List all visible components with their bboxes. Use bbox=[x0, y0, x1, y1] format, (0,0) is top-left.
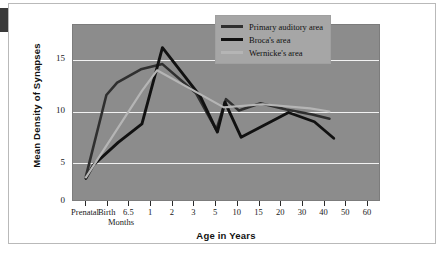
x-tick-label: 5 bbox=[213, 207, 217, 217]
x-tick-label: 60 bbox=[363, 207, 372, 217]
figure-page: Mean Density of Synapses 15 10 5 0 Prena… bbox=[0, 0, 445, 262]
x-tick-label: 6.5 bbox=[123, 207, 134, 217]
x-tick-mark bbox=[85, 201, 86, 206]
x-tick-label: 1 bbox=[148, 207, 152, 217]
x-tick-mark bbox=[172, 201, 173, 206]
series-line bbox=[86, 70, 330, 177]
x-tick-mark bbox=[345, 201, 346, 206]
x-tick-label: 15 bbox=[254, 207, 263, 217]
chart-legend: Primary auditory area Broca's area Werni… bbox=[215, 15, 331, 64]
x-tick-label: 10 bbox=[233, 207, 242, 217]
legend-swatch-icon bbox=[221, 38, 243, 42]
legend-label: Primary auditory area bbox=[249, 22, 323, 32]
x-tick-mark bbox=[280, 201, 281, 206]
x-axis-title: Age in Years bbox=[72, 230, 380, 241]
x-tick-mark bbox=[302, 201, 303, 206]
x-tick-label: Prenatal bbox=[71, 207, 99, 217]
legend-swatch-icon bbox=[221, 25, 243, 29]
y-tick-label-15: 15 bbox=[39, 53, 65, 63]
chart-figure: Mean Density of Synapses 15 10 5 0 Prena… bbox=[8, 3, 436, 244]
x-tick-mark bbox=[324, 201, 325, 206]
x-tick-label: 2 bbox=[170, 207, 174, 217]
y-tick-label-10: 10 bbox=[39, 105, 65, 115]
legend-label: Broca's area bbox=[249, 35, 290, 45]
x-tick-label: 3 bbox=[191, 207, 195, 217]
legend-label: Wernicke's area bbox=[249, 48, 302, 58]
x-tick-mark bbox=[150, 201, 151, 206]
x-tick-mark bbox=[128, 201, 129, 206]
legend-swatch-icon bbox=[221, 51, 243, 54]
legend-item: Primary auditory area bbox=[221, 20, 323, 33]
legend-item: Broca's area bbox=[221, 33, 323, 46]
legend-item: Wernicke's area bbox=[221, 46, 323, 59]
x-tick-mark bbox=[193, 201, 194, 206]
x-tick-mark bbox=[367, 201, 368, 206]
x-tick-mark bbox=[237, 201, 238, 206]
x-tick-label: Birth bbox=[98, 207, 115, 217]
x-tick-label: 40 bbox=[319, 207, 328, 217]
x-tick-label: 30 bbox=[298, 207, 307, 217]
x-tick-label: 50 bbox=[341, 207, 350, 217]
x-axis-months-note: Months bbox=[108, 217, 134, 227]
x-tick-mark bbox=[107, 201, 108, 206]
series-line bbox=[86, 48, 334, 179]
x-tick-label: 20 bbox=[276, 207, 285, 217]
y-tick-label-0: 0 bbox=[39, 195, 65, 205]
x-tick-mark bbox=[215, 201, 216, 206]
y-tick-label-5: 5 bbox=[39, 157, 65, 167]
x-tick-mark bbox=[259, 201, 260, 206]
